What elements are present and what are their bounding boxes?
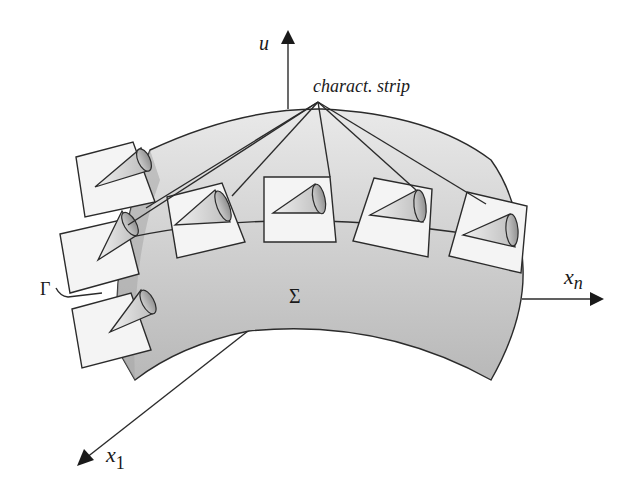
x1-axis-arrow-icon [77, 449, 94, 466]
tangent-plane-5 [264, 177, 336, 242]
x1-axis-label: x1 [105, 442, 125, 473]
curve-gamma-label: Γ [40, 279, 50, 299]
xn-axis [522, 292, 604, 306]
u-axis [281, 30, 295, 109]
u-axis-arrow-icon [281, 30, 295, 44]
characteristic-strip-label: charact. strip [313, 76, 410, 96]
surface-sigma-label: Σ [289, 285, 301, 307]
xn-axis-label: xn [563, 264, 583, 293]
characteristic-strip-diagram: u x1 xn Σ Γ [0, 0, 631, 493]
u-axis-label: u [259, 32, 269, 54]
xn-axis-arrow-icon [590, 292, 604, 306]
